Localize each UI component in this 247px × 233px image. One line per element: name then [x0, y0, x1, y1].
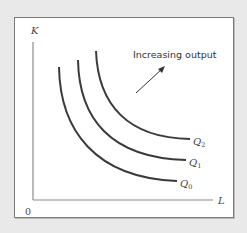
arrow-shaft: [136, 69, 162, 93]
curve-label-q1: Q1: [189, 157, 201, 170]
isoquant-curve-q0: [59, 67, 177, 181]
svg-text:Q2: Q2: [193, 136, 205, 149]
isoquant-curve-q2: [96, 51, 190, 139]
increasing-output-label: Increasing output: [133, 49, 217, 60]
x-axis-label: L: [217, 195, 225, 206]
curve-label-q1-sub: 1: [197, 162, 201, 170]
curve-label-q0: Q0: [180, 178, 192, 191]
curve-label-q2-sub: 2: [201, 141, 205, 149]
isoquant-curve-q1: [78, 60, 186, 160]
curve-label-q1-main: Q: [189, 157, 197, 168]
curve-label-q0-main: Q: [180, 178, 188, 189]
isoquant-diagram: K L 0 Q0 Q1 Q2 Increasing output: [0, 0, 247, 233]
increasing-output-arrow: [136, 66, 165, 93]
y-axis-label: K: [30, 25, 39, 36]
curve-label-q2-main: Q: [193, 136, 201, 147]
svg-text:Q0: Q0: [180, 178, 192, 191]
origin-label: 0: [25, 206, 31, 217]
curve-label-q2: Q2: [193, 136, 205, 149]
curve-label-q0-sub: 0: [188, 183, 192, 191]
svg-text:Q1: Q1: [189, 157, 201, 170]
